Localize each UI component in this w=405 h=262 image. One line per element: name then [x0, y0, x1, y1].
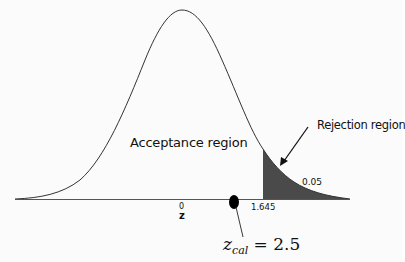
rejection-region-label: Rejection region [317, 120, 405, 132]
zcal-subscript: cal [232, 244, 248, 257]
zcal-value: = 2.5 [248, 234, 300, 254]
arrow-head-icon [280, 157, 288, 166]
alpha-label: 0.05 [302, 178, 322, 187]
zcal-marker-dot [229, 195, 239, 209]
zcal-variable: z [223, 234, 232, 254]
zcal-leader-line [236, 207, 243, 237]
critical-value-label: 1.645 [251, 203, 275, 212]
acceptance-region-label: Acceptance region [130, 136, 248, 149]
zcal-label: zcal = 2.5 [223, 236, 300, 256]
rejection-region-shade [263, 149, 350, 199]
bell-curve [15, 10, 350, 199]
x-axis-label: z [179, 211, 185, 221]
rejection-arrow [284, 127, 308, 161]
